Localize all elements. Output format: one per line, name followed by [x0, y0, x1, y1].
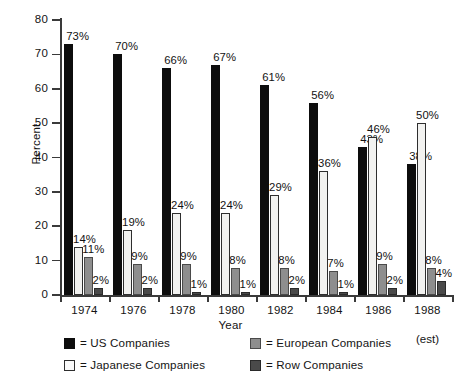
bar-label-us-1984: 56% [311, 90, 334, 101]
legend-item-row[interactable]: = Row Companies [250, 359, 363, 371]
bar-us-1980 [211, 65, 220, 295]
legend-label: = European Companies [266, 337, 391, 349]
y-tick-label: 80 [0, 14, 48, 26]
bar-label-us-1974: 73% [66, 31, 89, 42]
bar-eu-1986 [378, 264, 387, 295]
bar-us-1978 [162, 68, 171, 295]
y-tick [52, 88, 60, 90]
x-tick-label: 1982 [256, 304, 305, 317]
bar-label-row-1978: 1% [191, 279, 208, 290]
bar-us-1976 [113, 54, 122, 295]
bar-eu-1976 [133, 264, 142, 295]
bar-label-row-1986: 2% [387, 275, 404, 286]
bar-label-row-1980: 1% [240, 279, 257, 290]
bar-row-1988 [437, 281, 446, 295]
y-tick-label: 70 [0, 48, 48, 60]
x-tick [305, 295, 307, 302]
y-tick [52, 54, 60, 56]
x-tick [109, 295, 111, 302]
legend-swatch-eu-icon [250, 338, 261, 349]
y-tick [52, 225, 60, 227]
bar-us-1986 [358, 147, 367, 295]
bar-label-row-1984: 1% [338, 279, 355, 290]
y-tick [52, 191, 60, 193]
x-tick-label: 1980 [207, 304, 256, 317]
legend-swatch-row-icon [250, 360, 261, 371]
y-tick-label: 30 [0, 186, 48, 198]
x-tick-label: 1988 [403, 304, 452, 317]
y-tick-label: 60 [0, 83, 48, 95]
y-tick [52, 157, 60, 159]
bar-row-1986 [388, 288, 397, 295]
bar-label-us-1980: 67% [213, 52, 236, 63]
legend-item-eu[interactable]: = European Companies [250, 337, 391, 349]
x-tick-label: 1986 [354, 304, 403, 317]
legend-item-us[interactable]: = US Companies [64, 337, 170, 349]
x-tick [60, 295, 62, 302]
x-tick-label: 1974 [60, 304, 109, 317]
y-tick [52, 294, 60, 296]
bar-jp-1988 [417, 123, 426, 295]
legend-item-jp[interactable]: = Japanese Companies [64, 359, 205, 371]
legend-label: = US Companies [80, 337, 170, 349]
y-tick-label: 0 [0, 289, 48, 301]
x-tick [158, 295, 160, 302]
bar-label-eu-1986: 9% [376, 251, 393, 262]
x-axis-title: Year [0, 319, 461, 331]
bar-label-row-1976: 2% [142, 275, 159, 286]
bar-us-1988 [407, 164, 416, 295]
legend-label: = Japanese Companies [80, 359, 205, 371]
bar-row-1980 [241, 292, 250, 295]
bar-label-jp-1976: 19% [122, 217, 145, 228]
bar-label-eu-1984: 7% [327, 258, 344, 269]
legend-swatch-jp-icon [64, 360, 75, 371]
bar-us-1982 [260, 85, 269, 295]
x-tick [207, 295, 209, 302]
y-tick-label: 50 [0, 117, 48, 129]
bar-label-jp-1982: 29% [269, 182, 292, 193]
y-tick [52, 19, 60, 21]
y-tick [52, 260, 60, 262]
bar-label-jp-1978: 24% [171, 200, 194, 211]
y-tick [52, 122, 60, 124]
bar-label-us-1976: 70% [115, 41, 138, 52]
bar-label-jp-1980: 24% [220, 200, 243, 211]
bar-label-row-1982: 2% [289, 275, 306, 286]
bar-eu-1988 [427, 268, 436, 296]
bar-label-eu-1988: 8% [425, 255, 442, 266]
bar-eu-1982 [280, 268, 289, 296]
bar-label-eu-1980: 8% [229, 255, 246, 266]
bar-label-us-1982: 61% [262, 72, 285, 83]
legend-swatch-us-icon [64, 338, 75, 349]
bar-label-eu-1978: 9% [180, 251, 197, 262]
plot-area: 73%14%11%2%70%19%9%2%66%24%9%1%67%24%8%1… [60, 20, 452, 295]
bar-eu-1984 [329, 271, 338, 295]
bar-chart: Percent Year 01020304050607080 197419761… [0, 0, 461, 391]
bar-us-1984 [309, 103, 318, 296]
bar-eu-1974 [84, 257, 93, 295]
bar-row-1974 [94, 288, 103, 295]
bar-us-1974 [64, 44, 73, 295]
x-tick-label: 1978 [158, 304, 207, 317]
x-tick [256, 295, 258, 302]
bar-eu-1980 [231, 268, 240, 296]
bar-jp-1982 [270, 195, 279, 295]
bar-label-jp-1988: 50% [416, 110, 439, 121]
bar-label-jp-1986: 46% [367, 124, 390, 135]
x-tick-label: 1976 [109, 304, 158, 317]
y-tick-label: 40 [0, 152, 48, 164]
bar-label-eu-1974: 11% [82, 244, 104, 255]
bar-label-row-1974: 2% [93, 275, 110, 286]
bar-label-eu-1982: 8% [278, 255, 295, 266]
bar-row-1984 [339, 292, 348, 295]
x-tick [452, 295, 454, 302]
x-tick [403, 295, 405, 302]
x-tick [354, 295, 356, 302]
chart-legend: = US Companies= European Companies= Japa… [64, 337, 454, 383]
bar-jp-1986 [368, 137, 377, 295]
bar-row-1982 [290, 288, 299, 295]
bar-jp-1984 [319, 171, 328, 295]
bar-label-us-1978: 66% [164, 55, 187, 66]
y-tick-label: 10 [0, 255, 48, 267]
bar-label-eu-1976: 9% [131, 251, 148, 262]
